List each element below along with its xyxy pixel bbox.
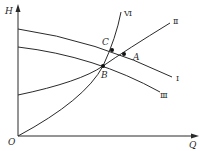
origin-label: O	[8, 137, 16, 147]
curve-VI-label: Ⅵ	[123, 9, 132, 18]
point-B	[101, 64, 105, 68]
point-B-label: B	[100, 70, 108, 80]
curve-I-label: Ⅰ	[176, 74, 179, 83]
q-axis-label: Q	[189, 140, 197, 150]
diagram-canvas: H Q O A B C Ⅰ Ⅱ Ⅲ Ⅵ	[0, 0, 200, 151]
point-A-label: A	[132, 52, 140, 62]
point-C	[110, 48, 114, 52]
curve-II	[18, 23, 170, 95]
curve-III-label: Ⅲ	[160, 91, 168, 100]
h-axis-arrow-icon	[16, 4, 21, 12]
point-C-label: C	[102, 37, 109, 47]
curve-II-label: Ⅱ	[173, 17, 178, 26]
point-A	[122, 52, 126, 56]
h-axis-label: H	[4, 6, 13, 16]
q-axis-arrow-icon	[191, 134, 199, 139]
